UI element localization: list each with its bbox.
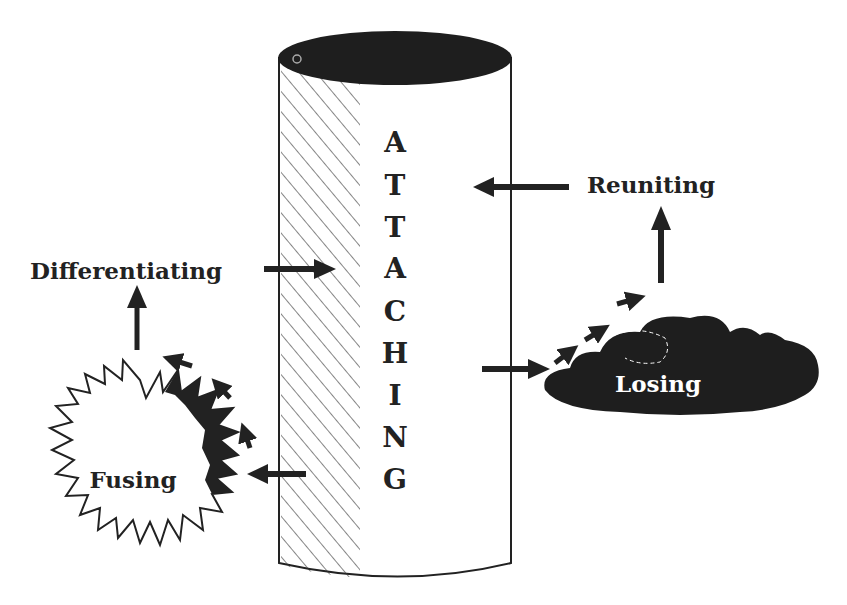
attaching-letter: T — [385, 211, 406, 244]
arrow-losing-to-reuniting — [651, 206, 671, 283]
losing-cloud: Losing — [544, 316, 818, 415]
attaching-label: A T T A C H I N G — [382, 126, 408, 496]
attaching-letter: A — [383, 126, 407, 159]
attaching-letter: G — [383, 463, 407, 496]
attaching-diagram: A T T A C H I N G Differentiating Reunit… — [0, 0, 847, 605]
attaching-letter: I — [388, 379, 401, 412]
fusing-label: Fusing — [89, 466, 176, 493]
reuniting-label: Reuniting — [587, 171, 715, 198]
arrow-fusing-to-differentiating — [127, 285, 147, 350]
cloud-shape — [544, 316, 818, 415]
losing-label: Losing — [615, 370, 701, 397]
attaching-letter: A — [383, 252, 407, 285]
differentiating-label: Differentiating — [30, 257, 222, 284]
attaching-letter: N — [382, 421, 408, 454]
fusing-starburst: Fusing — [50, 360, 238, 545]
cylinder-hatched-side — [281, 60, 360, 578]
attaching-letter: T — [385, 169, 406, 202]
cylinder-top — [278, 31, 512, 85]
attaching-letter: C — [384, 295, 406, 328]
attaching-letter: H — [382, 337, 408, 370]
